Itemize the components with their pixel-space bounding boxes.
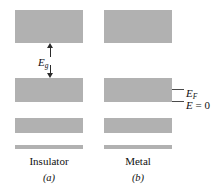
- metal-caption: Metal: [104, 155, 172, 167]
- zero-symbol: E: [186, 99, 193, 111]
- insulator-caption: Insulator: [15, 155, 83, 167]
- insulator-valence-band: [15, 78, 83, 102]
- energy-band-figure: Eg EF E = 0 Insulator Metal (a) (b): [0, 0, 221, 192]
- metal-baseline: [104, 145, 172, 149]
- gap-arrow-shaft-lower: [50, 65, 51, 73]
- metal-lower-band: [104, 118, 172, 133]
- panel-letter-a: (a): [15, 172, 83, 183]
- band-gap-label: Eg: [38, 53, 48, 69]
- zero-level-leader-line: [172, 101, 184, 102]
- insulator-baseline: [15, 145, 83, 149]
- band-gap-symbol: E: [38, 56, 45, 68]
- panel-letter-b: (b): [104, 172, 172, 183]
- zero-level-label: E = 0: [186, 96, 210, 112]
- zero-equals-value: = 0: [193, 99, 210, 111]
- fermi-level-leader-line: [172, 89, 184, 90]
- insulator-conduction-band: [15, 10, 83, 43]
- gap-arrow-head-down: [47, 73, 53, 78]
- metal-upper-band: [104, 10, 172, 43]
- band-gap-subscript: g: [45, 61, 49, 70]
- gap-arrow-shaft-upper: [50, 47, 51, 57]
- insulator-lower-band: [15, 118, 83, 133]
- metal-partially-filled-band: [104, 78, 172, 102]
